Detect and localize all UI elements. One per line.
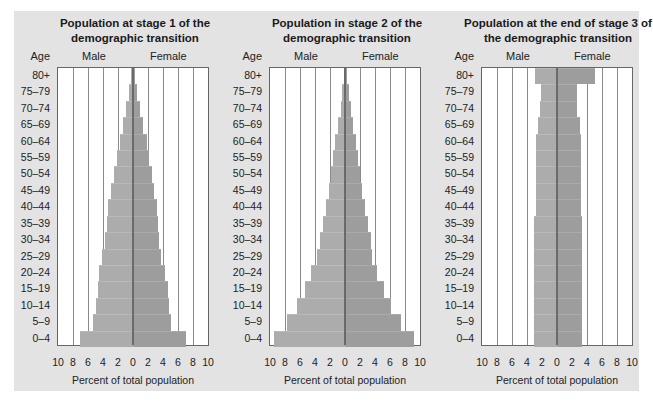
x-tick-label: 4 [312, 356, 318, 368]
female-bar [345, 298, 391, 314]
gridline [587, 68, 588, 345]
male-bar [536, 199, 557, 215]
female-bar [345, 265, 377, 281]
center-axis-line [132, 68, 134, 345]
age-group-label: 30–34 [218, 231, 262, 247]
x-tick-label: 10 [414, 356, 426, 368]
male-bar [534, 281, 557, 297]
male-bar [102, 249, 133, 265]
male-bar [274, 331, 345, 347]
age-group-label: 55–59 [6, 149, 50, 165]
chart-title: Population at stage 1 of thedemographic … [40, 16, 230, 46]
x-tick-label: 2 [569, 356, 575, 368]
female-bar [557, 134, 581, 150]
age-group-label: 25–29 [430, 248, 474, 264]
female-bar [557, 101, 577, 117]
female-bar [557, 199, 581, 215]
x-tick-label: 10 [264, 356, 276, 368]
x-tick-label: 6 [599, 356, 605, 368]
age-group-label: 35–39 [218, 215, 262, 231]
male-bar [326, 199, 346, 215]
male-label: Male [82, 50, 106, 62]
male-bar [536, 166, 557, 182]
gridline [617, 68, 618, 345]
age-group-label: 0–4 [430, 330, 474, 346]
age-group-label: 10–14 [430, 297, 474, 313]
age-group-label: 55–59 [218, 149, 262, 165]
age-group-label: 50–54 [430, 165, 474, 181]
age-group-label: 10–14 [6, 297, 50, 313]
x-tick-label: 6 [387, 356, 393, 368]
plot-area [269, 67, 421, 346]
x-tick-label: 2 [357, 356, 363, 368]
female-bar [133, 314, 171, 330]
x-tick-label: 4 [524, 356, 530, 368]
male-bar [311, 265, 345, 281]
male-bar [541, 84, 557, 100]
male-bar [536, 134, 557, 150]
female-bar [557, 150, 581, 166]
x-tick-label: 8 [282, 356, 288, 368]
female-bar [345, 249, 372, 265]
female-bar [557, 68, 595, 84]
female-bar [345, 150, 358, 166]
x-tick-label: 10 [52, 356, 64, 368]
female-bar [133, 281, 168, 297]
female-bar [557, 166, 581, 182]
female-bar [133, 150, 149, 166]
age-group-label: 5–9 [430, 313, 474, 329]
age-group-label: 80+ [430, 67, 474, 83]
female-bar [133, 134, 147, 150]
male-bar [534, 298, 557, 314]
female-bar [133, 101, 140, 117]
male-bar [536, 183, 557, 199]
male-bar [297, 298, 345, 314]
age-group-label: 25–29 [218, 248, 262, 264]
female-bar [557, 232, 582, 248]
age-group-label: 30–34 [430, 231, 474, 247]
age-group-label: 65–69 [218, 116, 262, 132]
male-bar [287, 314, 346, 330]
age-group-label: 25–29 [6, 248, 50, 264]
male-bar [317, 249, 345, 265]
age-group-label: 30–34 [6, 231, 50, 247]
gridline [497, 68, 498, 345]
chart-title-line: the demographic transition [458, 31, 653, 46]
x-tick-label: 2 [115, 356, 121, 368]
female-label: Female [362, 50, 399, 62]
age-group-label: 70–74 [6, 100, 50, 116]
chart-title: Population in stage 2 of thedemographic … [252, 16, 442, 46]
female-bar [345, 134, 356, 150]
male-bar [323, 216, 346, 232]
male-bar [540, 101, 557, 117]
x-tick-label: 4 [160, 356, 166, 368]
age-group-label: 80+ [218, 67, 262, 83]
female-bar [557, 249, 582, 265]
age-group-label: 60–64 [218, 133, 262, 149]
female-bar [557, 183, 581, 199]
female-label: Female [150, 50, 187, 62]
x-tick-label: 8 [614, 356, 620, 368]
age-group-label: 35–39 [430, 215, 474, 231]
age-group-label: 15–19 [218, 280, 262, 296]
plot-area [57, 67, 209, 346]
x-tick-label: 0 [554, 356, 560, 368]
male-bar [305, 281, 346, 297]
center-axis-line [556, 68, 558, 345]
x-tick-label: 8 [70, 356, 76, 368]
x-tick-label: 10 [202, 356, 214, 368]
x-axis-label: Percent of total population [269, 374, 421, 386]
age-group-label: 45–49 [6, 182, 50, 198]
age-group-label: 15–19 [430, 280, 474, 296]
male-bar [96, 298, 133, 314]
male-bar [117, 150, 133, 166]
chart-title-line: demographic transition [40, 31, 230, 46]
x-tick-label: 2 [539, 356, 545, 368]
gridline [285, 68, 286, 345]
female-bar [133, 199, 157, 215]
female-bar [345, 199, 365, 215]
female-bar [345, 331, 414, 347]
x-tick-label: 4 [584, 356, 590, 368]
age-group-label: 5–9 [6, 313, 50, 329]
chart-title: Population at the end of stage 3 ofthe d… [458, 16, 653, 46]
